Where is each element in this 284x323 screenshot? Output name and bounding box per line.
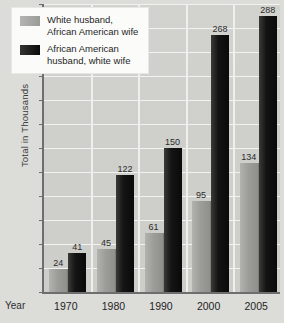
bar-value-label: 41 bbox=[72, 242, 82, 252]
legend-label: African American husband, white wife bbox=[47, 43, 130, 66]
y-axis-tick-mark bbox=[39, 268, 44, 269]
bar: 95 bbox=[192, 201, 211, 292]
bar-value-label: 45 bbox=[101, 238, 111, 248]
bar-value-label: 24 bbox=[53, 258, 63, 268]
legend-swatch-icon bbox=[20, 16, 40, 26]
y-axis-tick-mark bbox=[39, 196, 44, 197]
x-axis-label: Year bbox=[5, 300, 25, 311]
y-axis-tick-mark bbox=[39, 220, 44, 221]
legend-item: White husband, African American wife bbox=[20, 14, 138, 37]
bar-value-label: 95 bbox=[196, 190, 206, 200]
gridline bbox=[44, 124, 280, 125]
legend-label: White husband, African American wife bbox=[47, 14, 138, 37]
bar-value-label: 150 bbox=[165, 137, 180, 147]
bar-value-label: 268 bbox=[213, 24, 228, 34]
bar: 61 bbox=[145, 233, 164, 292]
y-axis-tick-mark bbox=[39, 244, 44, 245]
x-axis: Year 19701980199020002005 bbox=[0, 296, 284, 318]
y-axis-tick-mark bbox=[39, 76, 44, 77]
group-divider bbox=[186, 4, 188, 292]
gridline bbox=[44, 76, 280, 77]
bar: 150 bbox=[164, 148, 182, 292]
legend: White husband, African American wife Afr… bbox=[12, 8, 148, 73]
bar-value-label: 134 bbox=[241, 152, 256, 162]
gridline bbox=[44, 100, 280, 101]
y-axis-title: Total in Thousands bbox=[19, 56, 30, 196]
legend-swatch-icon bbox=[20, 45, 40, 55]
bar: 268 bbox=[211, 35, 229, 292]
x-axis-tick-label: 1990 bbox=[149, 300, 172, 312]
bar: 122 bbox=[116, 175, 134, 292]
bar-value-label: 288 bbox=[260, 5, 275, 15]
bar-value-label: 122 bbox=[117, 164, 132, 174]
gridline bbox=[44, 4, 280, 5]
bar: 134 bbox=[240, 163, 259, 292]
bar-value-label: 61 bbox=[148, 222, 158, 232]
x-axis-tick-label: 2000 bbox=[197, 300, 220, 312]
bar-chart: Total in Thousands 244145122611509526813… bbox=[0, 0, 284, 323]
y-axis-tick-mark bbox=[39, 148, 44, 149]
bar: 24 bbox=[49, 269, 68, 292]
y-axis-tick-mark bbox=[39, 4, 44, 5]
y-axis-tick-mark bbox=[39, 100, 44, 101]
y-axis-tick-mark bbox=[39, 124, 44, 125]
x-axis-tick-label: 1980 bbox=[102, 300, 125, 312]
gridline bbox=[44, 148, 280, 149]
x-axis-tick-label: 1970 bbox=[54, 300, 77, 312]
legend-item: African American husband, white wife bbox=[20, 43, 138, 66]
x-axis-tick-label: 2005 bbox=[245, 300, 268, 312]
y-axis-tick-mark bbox=[39, 172, 44, 173]
bar: 41 bbox=[68, 253, 86, 292]
x-axis-line bbox=[42, 292, 280, 294]
group-divider bbox=[233, 4, 235, 292]
bar: 288 bbox=[259, 16, 277, 292]
bar: 45 bbox=[97, 249, 116, 292]
